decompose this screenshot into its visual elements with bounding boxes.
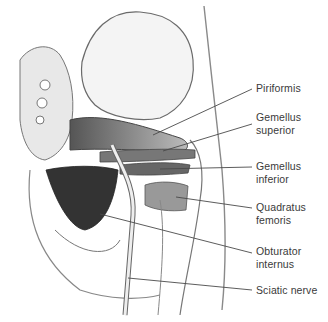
label-text: Quadratus <box>256 201 306 214</box>
label-sciatic-nerve: Sciatic nerve <box>256 284 317 297</box>
sacral-foramen <box>40 80 50 90</box>
label-text: Obturator <box>256 245 301 258</box>
sacral-foramen <box>36 116 44 124</box>
iliac-wing <box>82 12 194 120</box>
leader-line-sciatic-nerve <box>128 278 252 290</box>
label-text: Sciatic nerve <box>256 284 317 297</box>
label-obturator-internus: Obturator internus <box>256 245 301 271</box>
label-gemellus-inferior: Gemellus inferior <box>256 160 301 186</box>
quadratus-femoris-muscle <box>145 182 188 211</box>
label-text: superior <box>256 124 301 137</box>
leader-line-quadratus-femoris <box>176 197 252 208</box>
label-text: Piriformis <box>256 82 301 95</box>
label-quadratus-femoris: Quadratus femoris <box>256 201 306 227</box>
label-text: internus <box>256 258 301 271</box>
femur-inner-outline <box>158 200 163 315</box>
label-gemellus-superior: Gemellus superior <box>256 111 301 137</box>
label-piriformis: Piriformis <box>256 82 301 95</box>
label-text: Gemellus <box>256 111 301 124</box>
thigh-outline <box>204 6 225 310</box>
hip-anatomy-illustration: Piriformis Gemellus superior Gemellus in… <box>0 0 328 322</box>
piriformis-muscle <box>70 118 188 152</box>
leader-line-obturator-internus <box>100 214 252 253</box>
label-text: Gemellus <box>256 160 301 173</box>
sacral-foramen <box>37 98 47 108</box>
ischial-tuberosity <box>55 230 120 251</box>
label-text: femoris <box>256 214 306 227</box>
label-text: inferior <box>256 173 301 186</box>
obturator-internus-muscle <box>46 166 118 230</box>
